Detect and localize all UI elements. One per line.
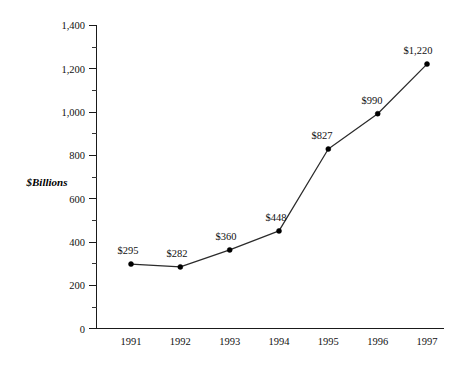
data-point-1995	[326, 147, 331, 152]
data-point-1992	[178, 264, 183, 269]
data-point-1996	[375, 111, 380, 116]
y-tick-label-1200: 1,200	[61, 64, 85, 75]
x-tick-label-1995: 1995	[318, 336, 339, 347]
y-tick-label-600: 600	[69, 194, 85, 205]
data-label-1997: $1,220	[404, 45, 433, 56]
x-tick-label-1997: 1997	[417, 336, 438, 347]
y-tick-label-1000: 1,000	[61, 107, 85, 118]
data-label-1991: $295	[118, 245, 139, 256]
data-label-1994: $448	[266, 212, 287, 223]
x-tick-label-1991: 1991	[121, 336, 142, 347]
y-tick-label-1400: 1,400	[61, 20, 85, 31]
data-point-1997	[425, 62, 430, 67]
data-point-1991	[129, 262, 134, 267]
y-tick-label-400: 400	[69, 237, 85, 248]
x-tick-label-1992: 1992	[170, 336, 191, 347]
x-tick-label-1993: 1993	[219, 336, 240, 347]
chart-canvas: 1,400 1,200 1,000 800 600 400 200 0 $Bil…	[0, 0, 471, 367]
x-tick-label-1994: 1994	[269, 336, 291, 347]
data-label-1993: $360	[216, 231, 237, 242]
y-tick-label-800: 800	[69, 150, 85, 161]
y-axis-title: $Billions	[26, 176, 68, 188]
x-tick-label-1996: 1996	[367, 336, 388, 347]
data-label-1995: $827	[312, 130, 333, 141]
chart-background	[0, 0, 471, 367]
data-point-1993	[227, 247, 232, 252]
data-label-1992: $282	[167, 248, 188, 259]
y-tick-label-200: 200	[69, 280, 85, 291]
line-chart: 1,400 1,200 1,000 800 600 400 200 0 $Bil…	[0, 0, 471, 367]
data-label-1996: $990	[362, 95, 383, 106]
data-point-1994	[277, 228, 282, 233]
y-tick-label-0: 0	[80, 324, 85, 335]
